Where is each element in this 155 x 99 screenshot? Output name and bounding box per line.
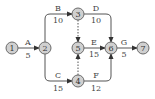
node-5: 5 [72, 42, 84, 54]
activity-c-name: C [55, 71, 61, 80]
activity-f-duration: 12 [91, 84, 101, 93]
activity-a-duration: 5 [25, 51, 30, 60]
network-diagram: A 5 B 10 C 15 D 10 E 15 F 12 G 5 1 2 3 4… [0, 0, 155, 99]
node-6: 6 [105, 42, 117, 54]
svg-text:1: 1 [9, 44, 14, 53]
activity-f-name: F [93, 71, 99, 80]
activity-e-duration: 15 [89, 50, 99, 59]
activity-b-duration: 10 [53, 16, 63, 25]
svg-text:4: 4 [75, 77, 80, 86]
activity-a-name: A [24, 38, 31, 47]
activity-b-name: B [55, 4, 61, 13]
node-3: 3 [72, 8, 84, 20]
activity-d-duration: 10 [91, 16, 101, 25]
svg-text:6: 6 [108, 44, 113, 53]
node-4: 4 [72, 75, 84, 87]
svg-text:7: 7 [140, 44, 145, 53]
activity-e-name: E [91, 38, 97, 47]
node-1: 1 [6, 42, 18, 54]
activity-c-duration: 15 [53, 84, 63, 93]
node-7: 7 [137, 42, 149, 54]
activity-g-duration: 5 [121, 50, 126, 59]
svg-text:5: 5 [75, 44, 80, 53]
activity-g-name: G [121, 38, 127, 47]
activity-d-name: D [93, 4, 99, 13]
svg-text:2: 2 [42, 44, 47, 53]
node-2: 2 [39, 42, 51, 54]
svg-text:3: 3 [75, 10, 80, 19]
